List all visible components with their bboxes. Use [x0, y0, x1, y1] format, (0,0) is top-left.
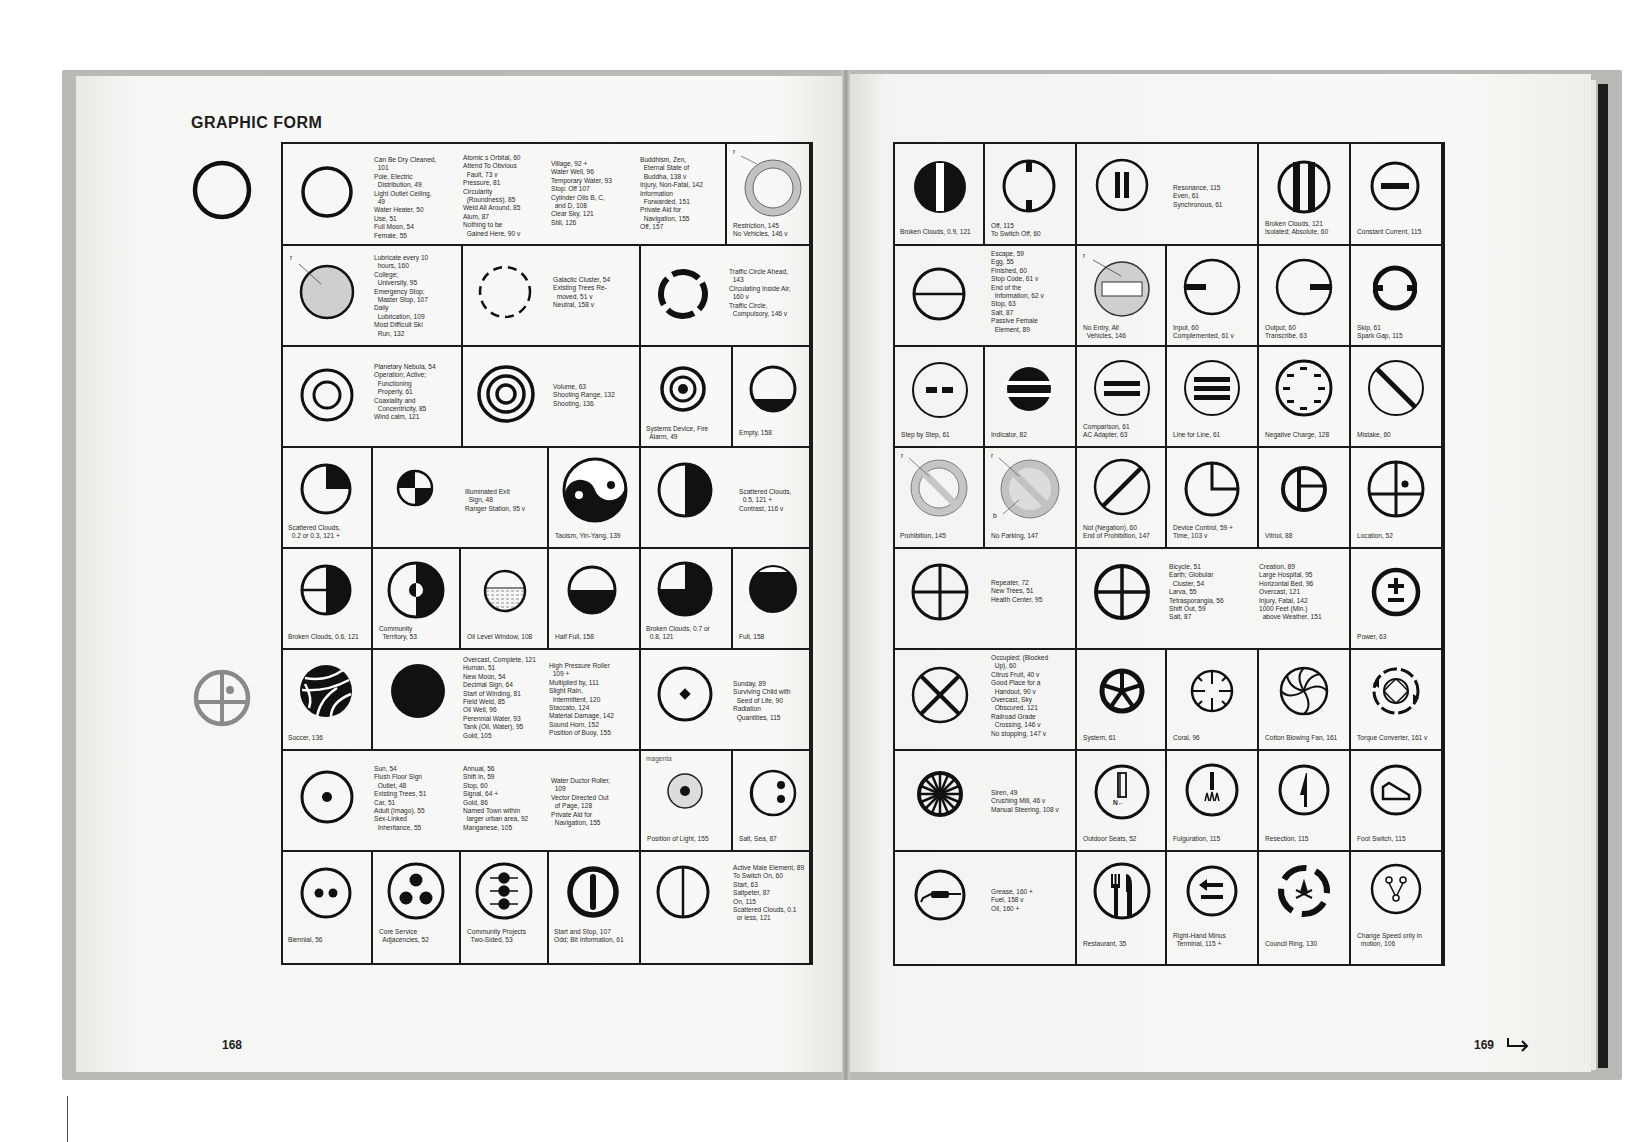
circle-right-bar-icon — [1273, 256, 1335, 318]
definition-list: Active Male Element, 89 To Switch On, 60… — [733, 864, 804, 923]
symbol-caption: Coral, 96 — [1173, 734, 1200, 742]
circle-horizontal-diameter-icon — [909, 264, 969, 324]
symbol-cell: Input, 60 Complemented, 61 v — [1167, 246, 1259, 347]
symbol-caption: Cotton Blowing Fan, 161 — [1265, 734, 1337, 742]
symbol-cell: Location, 52 — [1351, 448, 1443, 549]
symbol-cell: Coral, 96 — [1167, 650, 1259, 751]
definition-list: Resonance, 115 Even, 61 Synchronous, 61 — [1173, 184, 1223, 209]
disc-two-white-bars-icon — [1005, 365, 1053, 413]
clock-quarter-icon — [1181, 458, 1243, 520]
symbol-cell: Can Be Dry Cleaned, 101 Pole, Electric D… — [283, 144, 727, 246]
symbol-cell: Line for Line, 61 — [1167, 347, 1259, 448]
symbol-caption: Taoism, Yin-Yang, 139 — [555, 532, 621, 540]
back-cover-edge — [1598, 84, 1608, 1068]
double-ring-icon — [297, 365, 357, 425]
symbol-cell: Negative Charge, 128 — [1259, 347, 1351, 448]
symbol-caption: Power, 63 — [1357, 633, 1386, 641]
definition-list: Illuminated Exit Sign, 48 Ranger Station… — [465, 488, 525, 513]
definition-list: Traffic Circle Ahead, 143 Circulating In… — [729, 268, 791, 318]
symbol-cell: r Restriction, 145 No Vehicles, 146 v — [727, 144, 811, 246]
plus-minus-icon — [1369, 565, 1423, 619]
definition-list: Escape, 59 Egg, 55 Finished, 60 Stop Cod… — [991, 250, 1044, 334]
symbol-caption: Line for Line, 61 — [1173, 431, 1220, 439]
definition-list: Can Be Dry Cleaned, 101 Pole, Electric D… — [374, 156, 436, 240]
two-dots-icon — [297, 864, 355, 922]
symbol-cell: Illuminated Exit Sign, 48 Ranger Station… — [373, 448, 549, 549]
symbol-caption: Location, 52 — [1357, 532, 1393, 540]
symbol-cell: Broken Clouds, 0.7 or 0.8, 121 — [641, 549, 733, 650]
right-page-number: 169 — [1474, 1038, 1494, 1052]
label-r: r — [733, 148, 735, 156]
symbol-caption: Mistake, 60 — [1357, 431, 1391, 439]
symbol-cell: Power, 63 — [1351, 549, 1443, 650]
symbol-cell: Scattered Clouds, 0.5, 121 + Contrast, 1… — [641, 448, 811, 549]
circle-horizontal-bar-icon — [1367, 158, 1423, 214]
crosshair-circle-icon — [1187, 666, 1237, 716]
symbol-cell: r No Entry, All Vehicles, 146 — [1077, 246, 1167, 347]
symbol-caption: Core Service Adjacencies, 52 — [379, 928, 429, 945]
symbol-caption: Biennial, 56 — [288, 936, 322, 944]
symbol-cell: Sunday, 89 Surviving Child with Seed of … — [641, 650, 811, 751]
symbol-cell: Full, 158 — [733, 549, 811, 650]
symbol-cell: Restaurant, 35 — [1077, 852, 1167, 964]
symbol-cell: Volume, 63 Shooting Range, 132 Shooting,… — [463, 347, 641, 448]
volleyball-icon — [297, 662, 355, 720]
outdoor-seats-icon — [1091, 761, 1153, 823]
half-filled-vertical-icon — [655, 460, 715, 520]
symbol-cell: Siren, 49 Crushing Mill, 46 v Manual Ste… — [895, 751, 1077, 852]
vitriol-icon — [1279, 464, 1329, 514]
label-r: r — [991, 452, 993, 460]
definition-list: Occupied; (Blocked Up), 60 Citrus Fruit,… — [991, 654, 1048, 738]
half-filled-with-dot-icon — [385, 559, 447, 621]
symbol-cell: Oil Level Window, 108 — [461, 549, 549, 650]
symbol-caption: Empty, 158 — [739, 429, 772, 437]
symbol-caption: Torque Converter, 161 v — [1357, 734, 1427, 742]
symbol-caption: Change Speed only in motion, 106 — [1357, 932, 1422, 949]
symbol-caption: Output, 60 Transcribe, 63 — [1265, 324, 1307, 341]
plain-circle-icon — [190, 158, 254, 222]
three-quarter-cross-icon — [297, 561, 355, 619]
symbol-cell: Community Projects Two-Sided, 53 — [461, 852, 549, 963]
checkered-quarters-icon — [395, 468, 435, 508]
circle-two-dashes-icon — [909, 359, 971, 421]
symbol-cell: Galactic Cluster, 54 Existing Trees Re- … — [463, 246, 641, 347]
symbol-cell: Resection, 115 — [1259, 751, 1351, 852]
quarter-filled-circle-icon — [297, 460, 355, 518]
magenta-dotted-circle-icon — [665, 771, 705, 811]
symbol-caption: Not (Negation), 60 End of Prohibition, 1… — [1083, 524, 1150, 541]
definition-list: Bicycle, 51 Earth; Globular Cluster, 54 … — [1169, 563, 1224, 622]
symbol-cell: Change Speed only in motion, 106 — [1351, 852, 1443, 964]
symbol-caption: Outdoor Seats, 52 — [1083, 835, 1137, 843]
symbol-cell: Taoism, Yin-Yang, 139 — [549, 448, 641, 549]
arrow-minus-icon — [1183, 862, 1241, 920]
three-dots-icon — [385, 860, 447, 922]
symbol-caption: Step by Step, 61 — [901, 431, 950, 439]
foot-switch-icon — [1367, 761, 1425, 819]
symbol-cell: Fulguration, 115 — [1167, 751, 1259, 852]
symbol-caption: Council Ring, 130 — [1265, 940, 1317, 948]
symbol-caption: Device Control, 59 + Time, 103 v — [1173, 524, 1233, 541]
disc-with-white-bar-icon — [911, 158, 969, 216]
symbol-caption: Right-Hand Minus Terminal, 115 + — [1173, 932, 1226, 949]
circle-left-bar-icon — [1181, 256, 1243, 318]
symbol-cell: Scattered Clouds, 0.2 or 0.3, 121 + — [283, 448, 373, 549]
four-segment-circle-icon — [653, 264, 713, 324]
symbol-cell: Output, 60 Transcribe, 63 — [1259, 246, 1351, 347]
circle-with-dot-icon — [297, 767, 357, 827]
solid-disc-icon — [389, 662, 447, 720]
no-parking-icon — [997, 456, 1063, 522]
symbol-caption: Negative Charge, 128 — [1265, 431, 1329, 439]
section-title: GRAPHIC FORM — [191, 114, 322, 132]
symbol-caption: Broken Clouds, 0.9, 121 — [900, 228, 971, 236]
symbol-cell: Grease, 160 + Fuel, 158 v Oil, 160 + — [895, 852, 1077, 964]
symbol-caption: Full, 158 — [739, 633, 764, 641]
definition-list: Village, 92 + Water Well, 96 Temporary W… — [551, 160, 612, 227]
gray-filled-circle-icon — [297, 262, 357, 322]
definition-list: Lubricate every 10 hours, 160 College; U… — [374, 254, 428, 338]
campfire-ring-icon — [1273, 860, 1335, 922]
definition-list: Repeater, 72 New Trees, 51 Health Center… — [991, 579, 1042, 604]
change-speed-icon — [1367, 860, 1425, 918]
symbol-caption: Soccer, 136 — [288, 734, 323, 742]
symbol-cell: Broken Clouds, 0.9, 121 — [895, 144, 985, 246]
circle-ring-of-dashes-icon — [1273, 357, 1335, 419]
